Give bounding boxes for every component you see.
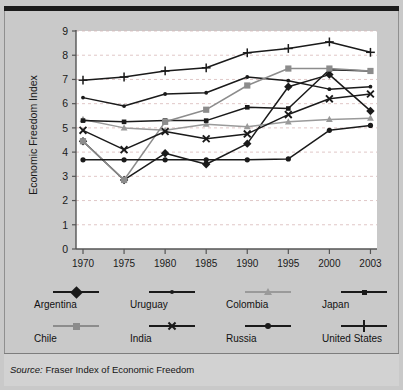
legend-label: India [126,333,218,345]
legend-symbol [245,320,291,332]
svg-text:1975: 1975 [113,258,136,269]
legend-marker-triangle [264,288,272,295]
svg-text:2003: 2003 [359,258,382,269]
legend-label: Argentina [30,299,122,311]
svg-text:1: 1 [62,219,68,231]
legend-item-india[interactable]: India [126,320,218,345]
legend-label: Colombia [222,299,314,311]
legend-item-united-states[interactable]: United States [318,320,403,345]
legend-symbol [341,320,387,332]
source-value: Fraser Index of Economic Freedom [43,364,195,375]
legend-marker-square [73,323,80,330]
legend-marker-cross-x [167,321,177,331]
svg-text:2: 2 [62,194,68,206]
legend-item-colombia[interactable]: Colombia [222,286,314,311]
legend-label: Uruguay [126,299,218,311]
source-label: Source: [10,364,43,375]
legend-symbol [245,286,291,298]
legend-marker-circle [265,323,271,329]
series-chile [80,65,374,183]
chart-legend: Argentina Uruguay Colombia Japan Chile I… [4,282,399,350]
legend-symbol [149,320,195,332]
legend-label: Japan [318,299,403,311]
legend-label: Chile [30,333,122,345]
legend-item-uruguay[interactable]: Uruguay [126,286,218,311]
legend-label: Russia [222,333,314,345]
svg-text:2000: 2000 [318,258,341,269]
svg-text:1970: 1970 [72,258,95,269]
line-chart: 0123456789197019751980198519901995200020… [36,27,384,287]
svg-text:8: 8 [62,49,68,61]
plot-area: 0123456789197019751980198519901995200020… [36,27,384,287]
legend-symbol [149,286,195,298]
legend-item-japan[interactable]: Japan [318,286,403,311]
svg-text:7: 7 [62,73,68,85]
legend-symbol [53,286,99,298]
legend-symbol [53,320,99,332]
svg-text:6: 6 [62,97,68,109]
svg-text:3: 3 [62,170,68,182]
legend-marker-small-dot [170,290,174,294]
svg-text:1995: 1995 [277,258,300,269]
source-note: Source: Fraser Index of Economic Freedom [10,364,194,375]
svg-text:1985: 1985 [195,258,218,269]
legend-marker-plus [358,320,370,332]
legend-label: United States [318,333,403,345]
legend-marker-small-square [362,290,367,295]
svg-text:5: 5 [62,122,68,134]
legend-item-argentina[interactable]: Argentina [30,286,122,311]
legend-item-chile[interactable]: Chile [30,320,122,345]
legend-item-russia[interactable]: Russia [222,320,314,345]
source-bar: Source: Fraser Index of Economic Freedom [4,353,399,386]
svg-text:1980: 1980 [154,258,177,269]
legend-symbol [341,286,387,298]
figure-container: Economic Freedom Index 01234567891970197… [0,0,403,390]
svg-text:1990: 1990 [236,258,259,269]
svg-text:9: 9 [62,25,68,37]
svg-text:4: 4 [62,146,68,158]
svg-text:0: 0 [62,243,68,255]
legend-marker-diamond [70,286,83,299]
